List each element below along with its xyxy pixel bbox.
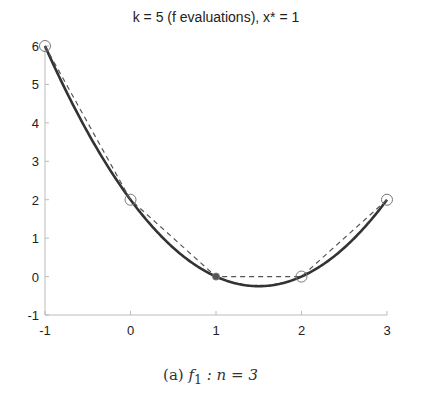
line-chart: k = 5 (f evaluations), x* = 1 -10123-101… — [0, 0, 421, 360]
y-tick-label: -1 — [27, 308, 39, 323]
y-tick-label: 0 — [32, 270, 39, 285]
caption-rest: : n = 3 — [207, 366, 258, 384]
plot-area — [40, 41, 393, 287]
y-tick-label: 6 — [32, 39, 39, 54]
x-tick-label: 1 — [212, 323, 219, 338]
figure-caption: (a) f1 : n = 3 — [0, 366, 421, 387]
y-tick-label: 4 — [32, 116, 39, 131]
caption-sub: 1 — [194, 372, 202, 387]
optimum-marker — [213, 273, 220, 280]
y-tick-label: 3 — [32, 154, 39, 169]
chart-title: k = 5 (f evaluations), x* = 1 — [133, 9, 300, 25]
evaluation-polyline — [45, 46, 387, 277]
x-tick-label: -1 — [39, 323, 51, 338]
x-tick-label: 2 — [298, 323, 305, 338]
x-tick-label: 0 — [127, 323, 134, 338]
x-tick-label: 3 — [383, 323, 390, 338]
y-tick-label: 1 — [32, 231, 39, 246]
function-curve — [45, 46, 387, 286]
y-tick-label: 5 — [32, 77, 39, 92]
caption-label: (a) — [163, 366, 184, 384]
axes: -10123-10123456 — [27, 39, 390, 338]
y-tick-label: 2 — [32, 193, 39, 208]
